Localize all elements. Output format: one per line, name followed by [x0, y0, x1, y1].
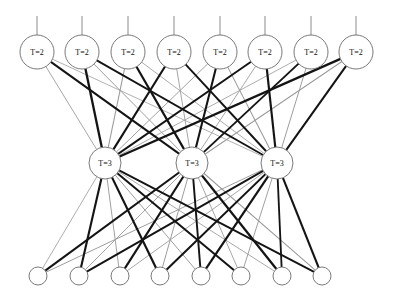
node-label: T=2	[167, 48, 180, 57]
node-label: T=3	[270, 159, 283, 168]
network-edge	[94, 64, 181, 152]
output-node[interactable]	[111, 267, 129, 285]
output-node[interactable]	[29, 267, 47, 285]
network-edge	[43, 177, 97, 269]
node-label: T=2	[75, 48, 88, 57]
output-node[interactable]	[273, 267, 291, 285]
network-edge	[283, 178, 319, 268]
nodes-layer: T=2T=2T=2T=2T=2T=2T=2T=2T=3T=3T=3	[20, 35, 373, 285]
network-edge	[119, 60, 296, 155]
node-label: T=2	[349, 48, 362, 57]
network-edge	[202, 176, 276, 269]
network-edge	[228, 67, 270, 149]
output-node[interactable]	[151, 267, 169, 285]
network-edge	[46, 67, 97, 150]
network-diagram: T=2T=2T=2T=2T=2T=2T=2T=2T=3T=3T=3	[0, 0, 393, 302]
node-label: T=3	[98, 159, 111, 168]
node-label: T=2	[213, 48, 226, 57]
stems-layer	[37, 16, 356, 35]
output-node[interactable]	[232, 267, 250, 285]
node-label: T=2	[30, 48, 43, 57]
node-label: T=2	[258, 48, 271, 57]
node-label: T=3	[185, 159, 198, 168]
network-edge	[81, 179, 101, 268]
network-svg: T=2T=2T=2T=2T=2T=2T=2T=2T=3T=3T=3	[0, 0, 393, 302]
output-node[interactable]	[313, 267, 331, 285]
node-label: T=2	[304, 48, 317, 57]
node-label: T=2	[121, 48, 134, 57]
output-node[interactable]	[192, 267, 210, 285]
network-edge	[120, 59, 341, 157]
network-edge	[127, 172, 264, 270]
network-edge	[196, 68, 216, 147]
output-node[interactable]	[70, 267, 88, 285]
